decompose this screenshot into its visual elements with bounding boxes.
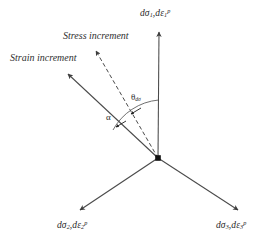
stress-increment-vector: [96, 51, 158, 158]
epsilon-superscript: p: [84, 219, 87, 226]
origin-point: [155, 155, 161, 161]
axis-line-sigma-1: [158, 32, 159, 158]
stress-increment-label: Stress increment: [63, 31, 129, 41]
angle-label-theta-dsigma: θdσ: [131, 93, 141, 103]
axis-lines: [80, 32, 238, 210]
epsilon-superscript: p: [167, 7, 170, 14]
figure-canvas: dσ1,dε1p dσ2,dε2p dσ3,dε3p Stress increm…: [0, 0, 270, 246]
strain-increment-vector: [68, 74, 158, 158]
diagram-vector-graphics: [0, 0, 270, 246]
epsilon-superscript: p: [243, 219, 246, 226]
axis-line-sigma-2: [80, 158, 158, 210]
theta-subscript: dσ: [135, 96, 141, 102]
angle-label-alpha: α: [106, 113, 111, 122]
alpha-glyph: α: [106, 112, 111, 122]
axis-line-sigma-3: [158, 158, 238, 210]
axis-label-sigma-2: dσ2,dε2p: [57, 220, 87, 230]
angle-arc: [113, 100, 159, 130]
strain-increment-label: Strain increment: [10, 53, 77, 63]
axis-label-sigma-3: dσ3,dε3p: [216, 220, 246, 230]
axis-label-sigma-1: dσ1,dε1p: [140, 8, 170, 18]
